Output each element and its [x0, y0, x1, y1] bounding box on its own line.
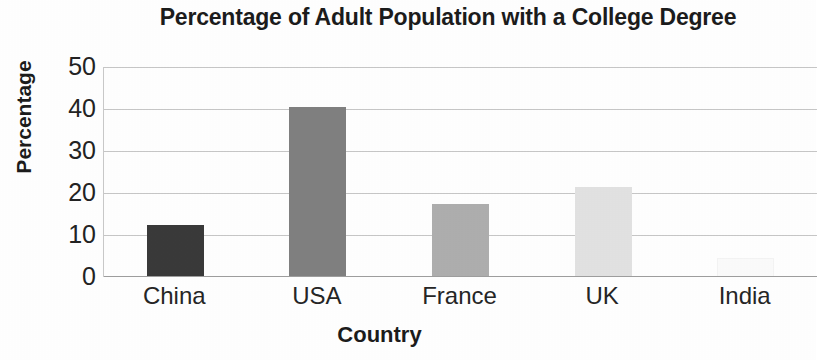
y-tick-label: 0	[36, 264, 96, 289]
x-axis-tick-labels: ChinaUSAFranceUKIndia	[103, 282, 816, 322]
x-axis-line	[104, 276, 817, 277]
plot-area	[103, 67, 816, 277]
y-tick-label: 10	[36, 222, 96, 247]
y-tick-label: 50	[36, 54, 96, 79]
bar-slot	[289, 67, 346, 277]
y-tick-label: 20	[36, 180, 96, 205]
bar-slot	[147, 67, 204, 277]
bar-uk[interactable]	[575, 187, 632, 277]
bar-series	[104, 67, 817, 277]
y-tick-label: 40	[36, 96, 96, 121]
x-tick-label-usa: USA	[246, 282, 389, 310]
x-tick-label-france: France	[388, 282, 531, 310]
bar-china[interactable]	[147, 225, 204, 278]
bar-slot	[575, 67, 632, 277]
x-tick-label-india: India	[673, 282, 816, 310]
x-tick-label-china: China	[103, 282, 246, 310]
bar-slot	[432, 67, 489, 277]
x-axis-title: Country	[103, 322, 816, 348]
x-tick-label-uk: UK	[531, 282, 674, 310]
bar-slot	[717, 67, 774, 277]
bar-usa[interactable]	[289, 107, 346, 277]
bar-france[interactable]	[432, 204, 489, 278]
y-axis-title: Percentage	[12, 27, 36, 207]
y-axis-tick-labels: 50403020100	[34, 0, 96, 360]
y-tick-label: 30	[36, 138, 96, 163]
bar-india[interactable]	[717, 258, 774, 277]
chart-title: Percentage of Adult Population with a Co…	[0, 4, 816, 31]
